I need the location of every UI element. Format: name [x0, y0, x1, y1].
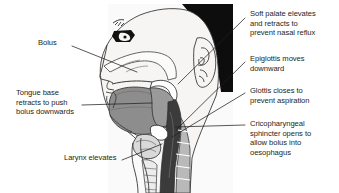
label-epiglottis: Epiglottis moves downward — [250, 54, 305, 73]
label-tongue-base: Tongue base retracts to push bolus downw… — [16, 88, 74, 117]
label-bolus: Bolus — [38, 38, 57, 48]
swallowing-diagram: Bolus Tongue base retracts to push bolus… — [0, 0, 339, 193]
label-soft-palate: Soft palate elevates and retracts to pre… — [250, 9, 316, 38]
label-glottis: Glottis closes to prevent aspiration — [250, 86, 309, 105]
label-cricopharyngeal: Cricopharyngeal sphincter opens to allow… — [250, 119, 311, 157]
label-larynx-elevates: Larynx elevates — [64, 153, 116, 163]
